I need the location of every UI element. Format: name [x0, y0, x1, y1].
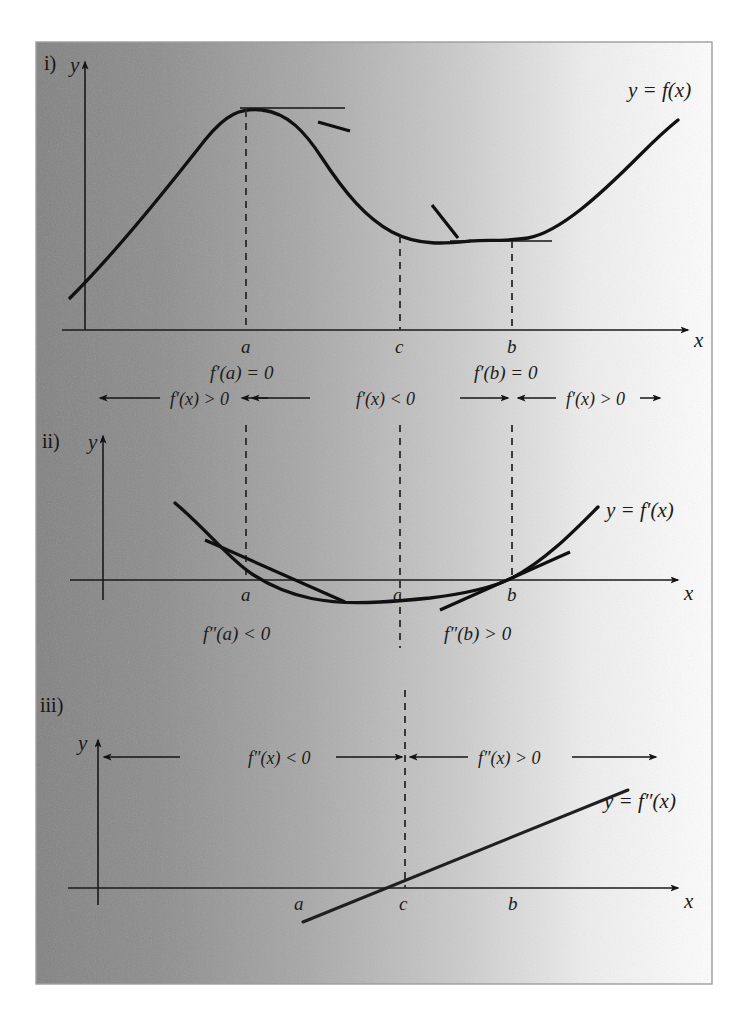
panel-i-tick-c: c — [395, 336, 404, 357]
panel-i-curve-label: y = f(x) — [626, 78, 691, 102]
panel-ii-note-fdoubleprime-b: f″(b) > 0 — [444, 623, 512, 645]
band1-label-left: f′(x) > 0 — [170, 389, 229, 410]
band5-label-right: f″(x) > 0 — [478, 748, 541, 769]
sign-band-first-derivative: f′(x) > 0 f′(x) < 0 f′(x) > 0 — [100, 389, 660, 410]
panel-ii-y-axis-label: y — [86, 430, 98, 454]
panel-ii-x-axis-label: x — [683, 581, 694, 605]
panel-i-roman-label: i) — [44, 52, 56, 75]
band3-label-right: f′(x) > 0 — [566, 389, 625, 410]
panel-ii-tick-a: a — [241, 584, 251, 605]
panel-ii-roman-label: ii) — [42, 430, 60, 453]
panel-iii-tick-b: b — [508, 893, 518, 914]
calculus-derivative-figure: i) y x y = f(x) a c b — [0, 0, 744, 1020]
panel-i-tick-a: a — [241, 336, 251, 357]
panel-iii-x-axis-label: x — [683, 889, 694, 913]
panel-iii-y-axis-label: y — [76, 731, 88, 755]
band2-label-middle: f′(x) < 0 — [356, 389, 415, 410]
figure-root: i) y x y = f(x) a c b — [0, 0, 744, 1020]
note-fprime-a-zero: f′(a) = 0 — [210, 362, 274, 384]
panel-iii-tick-a: a — [294, 893, 304, 914]
note-fprime-b-zero: f′(b) = 0 — [474, 362, 538, 384]
band4-label-left: f″(x) < 0 — [248, 748, 311, 769]
panel-ii-curve-label: y = f′(x) — [604, 498, 674, 522]
panel-ii-tick-b: b — [507, 584, 517, 605]
panel-i-y-axis-label: y — [68, 53, 80, 77]
panel-iii-curve-label: y = f″(x) — [602, 789, 676, 813]
panel-iii-tick-c: c — [399, 893, 408, 914]
panel-ii-note-fdoubleprime-a: f″(a) < 0 — [203, 623, 271, 645]
panel-i-tick-b: b — [507, 336, 517, 357]
panel-iii-roman-label: iii) — [40, 694, 63, 717]
panel-i-x-axis-label: x — [693, 328, 704, 352]
panel-ii-tick-c: c — [393, 584, 402, 605]
